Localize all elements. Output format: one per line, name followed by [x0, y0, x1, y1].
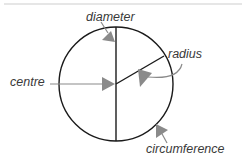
diameter-arrow-icon [101, 22, 115, 42]
radius-label: radius [168, 48, 202, 61]
circumference-arrow-icon [156, 124, 168, 143]
circle-parts-diagram: diameter radius centre circumference [0, 0, 252, 165]
centre-label: centre [10, 76, 45, 89]
circumference-label: circumference [146, 143, 225, 156]
diameter-label: diameter [86, 11, 135, 24]
